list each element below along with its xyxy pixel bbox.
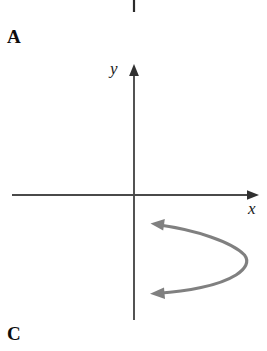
x-axis-label: x [248,200,256,217]
panel-label-c: C [7,324,21,343]
parabola-curve [150,219,247,299]
coordinate-plane-graphic [0,0,267,351]
parabola-path [158,225,247,293]
curve-arrowhead-lower-icon [150,288,165,299]
y-axis-arrowhead-icon [129,64,139,76]
figure-canvas: A C y x [0,0,267,351]
panel-label-a: A [7,27,21,46]
x-axis [12,190,259,200]
y-axis-label: y [110,60,118,77]
curve-arrowhead-upper-icon [151,219,165,230]
y-axis [129,64,139,320]
